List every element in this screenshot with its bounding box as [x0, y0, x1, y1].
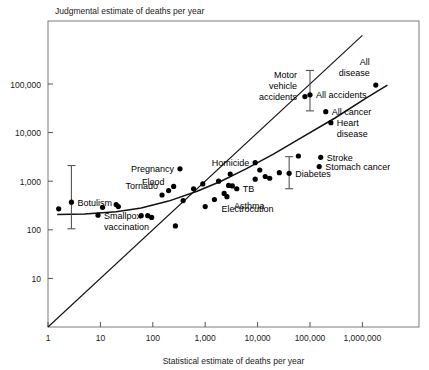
data-point [296, 153, 301, 158]
data-point [307, 92, 312, 97]
data-point [328, 120, 333, 125]
data-point [171, 184, 176, 189]
x-axis-title: Statistical estimate of deaths per year [163, 356, 305, 366]
x-tick-label: 1,000 [195, 333, 217, 343]
y-tick-label: 100,000 [10, 80, 41, 90]
data-point [228, 171, 233, 176]
data-point [166, 188, 171, 193]
data-point [317, 164, 322, 169]
y-tick-label: 100 [27, 225, 41, 235]
data-point [257, 167, 262, 172]
risk-perception-scatter-chart: Judgmental estimate of deaths per yearSt… [0, 0, 429, 370]
identity-line [48, 35, 362, 327]
data-point [159, 192, 164, 197]
data-point [149, 215, 154, 220]
data-point [224, 194, 229, 199]
data-point [253, 160, 258, 165]
y-tick-label: 10 [32, 274, 42, 284]
x-tick-label: 10,000 [245, 333, 271, 343]
data-point [181, 198, 186, 203]
x-tick-label: 10 [96, 333, 106, 343]
point-label: Alldisease [339, 57, 370, 78]
data-point [302, 94, 307, 99]
data-point [287, 171, 292, 176]
data-point [100, 205, 105, 210]
y-tick-label: 1,000 [20, 177, 42, 187]
data-point [203, 204, 208, 209]
point-label: Pregnancy [131, 164, 175, 174]
point-label: All cancer [332, 107, 372, 117]
point-label: Motorvehicleaccidents [259, 70, 298, 102]
data-point [234, 186, 239, 191]
data-point [200, 181, 205, 186]
data-point [191, 186, 196, 191]
data-point [373, 82, 378, 87]
data-point [318, 155, 323, 160]
y-tick-label: 10,000 [15, 128, 41, 138]
data-point [69, 200, 74, 205]
point-label: All accidents [316, 90, 367, 100]
point-label: Stomach cancer [325, 162, 390, 172]
data-point [277, 170, 282, 175]
data-point [56, 206, 61, 211]
data-point [253, 177, 258, 182]
point-label: Botulism [77, 198, 112, 208]
chart-svg: Judgmental estimate of deaths per yearSt… [0, 0, 429, 370]
data-point [173, 223, 178, 228]
point-label: Flood [142, 177, 165, 187]
x-tick-label: 100,000 [295, 333, 326, 343]
data-point [177, 166, 182, 171]
data-point [139, 213, 144, 218]
point-label: Electrocution [221, 204, 273, 214]
y-axis-title: Judgmental estimate of deaths per year [55, 6, 204, 16]
x-tick-label: 1,000,000 [343, 333, 381, 343]
x-tick-label: 100 [146, 333, 160, 343]
data-point [323, 109, 328, 114]
point-label: Homicide [212, 158, 250, 168]
data-point [216, 179, 221, 184]
point-label: Heartdisease [337, 118, 368, 139]
x-tick-label: 1 [46, 333, 51, 343]
data-point [212, 197, 217, 202]
data-point [230, 183, 235, 188]
data-point [267, 176, 272, 181]
point-label: TB [243, 184, 255, 194]
data-point [95, 213, 100, 218]
data-point [116, 204, 121, 209]
